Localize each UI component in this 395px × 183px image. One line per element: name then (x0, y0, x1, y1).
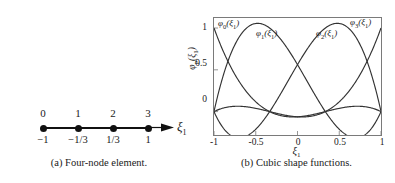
y-axis-close: ) (187, 47, 197, 50)
element-node-dot (75, 125, 82, 132)
y-tick-label: 1 (185, 22, 207, 32)
node-index-label: 0 (31, 107, 55, 119)
element-axis-line (43, 127, 148, 129)
y-tick-label: 0 (185, 94, 207, 104)
curve-φ0(ξ1) (214, 28, 381, 117)
node-coordinate-label: 1 (131, 134, 165, 145)
curve-φ2(ξ1) (214, 23, 381, 135)
curve-label-phi0: φ0(ξ1) (218, 18, 239, 30)
panel-a-caption: (a) Four-node element. (0, 157, 198, 168)
curve-φ3(ξ1) (214, 28, 381, 117)
element-axis-symbol: ξ1 (177, 119, 187, 137)
curve-label-phi1: φ1(ξ1) (256, 28, 277, 40)
node-index-label: 1 (66, 107, 90, 119)
panel-a-four-node-element: ξ1 0 1 2 3 −1 −1/3 1/3 1 (a) Four-node e… (0, 0, 198, 183)
y-axis-label: φp(ξ1) (187, 47, 200, 70)
node-coordinate-label: 1/3 (96, 134, 130, 145)
node-coordinate-label: −1 (26, 134, 60, 145)
axis-arrow-icon (150, 123, 174, 132)
node-index-label: 2 (101, 107, 125, 119)
element-node-dot (110, 125, 117, 132)
curve-label-phi3: φ3(ξ1) (350, 17, 371, 29)
node-coordinate-label: −1/3 (61, 134, 95, 145)
shape-function-curves (214, 18, 381, 135)
y-axis-arg-sub: 1 (192, 50, 200, 54)
figure-container: ξ1 0 1 2 3 −1 −1/3 1/3 1 (a) Four-node e… (0, 0, 395, 183)
element-node-dot (40, 125, 47, 132)
node-index-label: 3 (136, 107, 160, 119)
y-axis-arg: (ξ (187, 54, 197, 61)
element-node-dot (145, 125, 152, 132)
curve-label-phi2: φ2(ξ1) (316, 28, 337, 40)
panel-b-cubic-shape-functions: 1 0.5 0 -1 -0.5 0 0.5 1 φp(ξ1) ξ1 φ0(ξ1)… (198, 0, 395, 183)
element-diagram: ξ1 0 1 2 3 −1 −1/3 1/3 1 (0, 105, 198, 155)
axis-symbol-subscript: 1 (183, 128, 187, 137)
panel-b-caption: (b) Cubic shape functions. (198, 157, 395, 168)
y-axis-phi-sub: p (192, 61, 200, 65)
y-axis-phi: φ (187, 65, 197, 70)
curve-φ1(ξ1) (214, 23, 381, 135)
plot-frame (213, 17, 382, 136)
